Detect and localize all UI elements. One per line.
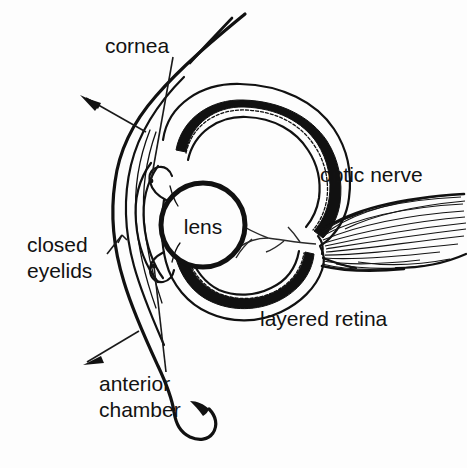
label-layered-retina: layered retina xyxy=(260,307,388,330)
label-cornea: cornea xyxy=(105,34,170,57)
eye-cross-section-illustration: cornea optic nerve lens closed eyelids l… xyxy=(0,0,467,468)
label-anterior-chamber-line2: chamber xyxy=(99,398,181,421)
label-closed-eyelids-line1: closed xyxy=(27,233,88,256)
label-anterior-chamber-line1: anterior xyxy=(99,372,170,395)
label-optic-nerve: optic nerve xyxy=(320,163,423,186)
eye-anatomy-diagram: cornea optic nerve lens closed eyelids l… xyxy=(0,0,467,468)
label-lens: lens xyxy=(184,215,223,238)
label-closed-eyelids-line2: eyelids xyxy=(27,259,92,282)
